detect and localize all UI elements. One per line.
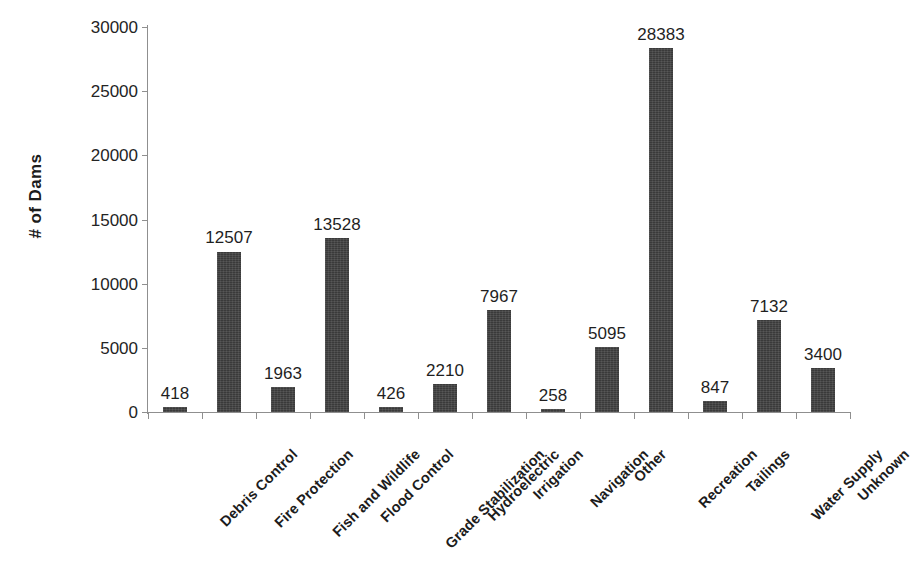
x-tick-mark: [148, 412, 149, 419]
bar[interactable]: [433, 384, 457, 412]
bar[interactable]: [811, 368, 835, 412]
bar-value-label: 7132: [724, 298, 814, 315]
x-tick-mark: [526, 412, 527, 419]
bar-value-label: 418: [130, 385, 220, 402]
bar-value-label: 7967: [454, 288, 544, 305]
bar[interactable]: [163, 407, 187, 412]
x-tick-mark: [850, 412, 851, 419]
bar-value-label: 1963: [238, 365, 328, 382]
bar[interactable]: [757, 320, 781, 412]
x-tick-mark: [418, 412, 419, 419]
x-tick-label: Grade Stabilization: [442, 446, 548, 552]
bar-value-label: 258: [508, 387, 598, 404]
bar[interactable]: [271, 387, 295, 412]
bar-value-label: 3400: [778, 346, 868, 363]
bar-value-label: 13528: [292, 216, 382, 233]
x-tick-mark: [580, 412, 581, 419]
x-tick-mark: [634, 412, 635, 419]
bar[interactable]: [541, 409, 565, 412]
x-tick-mark: [688, 412, 689, 419]
y-tick-mark: [142, 284, 148, 285]
y-tick-label: 30000: [48, 19, 138, 36]
y-tick-label: 25000: [48, 83, 138, 100]
x-tick-mark: [202, 412, 203, 419]
y-axis-title: # of Dams: [26, 126, 50, 266]
x-axis-line: [147, 412, 851, 413]
bar[interactable]: [703, 401, 727, 412]
bar[interactable]: [217, 252, 241, 413]
bar[interactable]: [649, 48, 673, 412]
x-tick-mark: [310, 412, 311, 419]
y-tick-mark: [142, 91, 148, 92]
y-tick-label: 15000: [48, 212, 138, 229]
x-tick-mark: [364, 412, 365, 419]
y-tick-label: 20000: [48, 147, 138, 164]
y-tick-label: 0: [48, 404, 138, 421]
plot-area: 050001000015000200002500030000418Debris …: [148, 27, 850, 412]
bar[interactable]: [379, 407, 403, 412]
y-tick-label: 5000: [48, 340, 138, 357]
y-tick-mark: [142, 220, 148, 221]
y-tick-mark: [142, 348, 148, 349]
bar-value-label: 847: [670, 379, 760, 396]
x-tick-mark: [256, 412, 257, 419]
bar-value-label: 5095: [562, 325, 652, 342]
x-tick-mark: [742, 412, 743, 419]
bar-value-label: 28383: [616, 26, 706, 43]
bar[interactable]: [595, 347, 619, 412]
bar-value-label: 426: [346, 385, 436, 402]
y-tick-mark: [142, 155, 148, 156]
bar-value-label: 2210: [400, 362, 490, 379]
bar-value-label: 12507: [184, 229, 274, 246]
y-tick-mark: [142, 27, 148, 28]
x-tick-mark: [472, 412, 473, 419]
x-tick-mark: [796, 412, 797, 419]
y-tick-label: 10000: [48, 276, 138, 293]
